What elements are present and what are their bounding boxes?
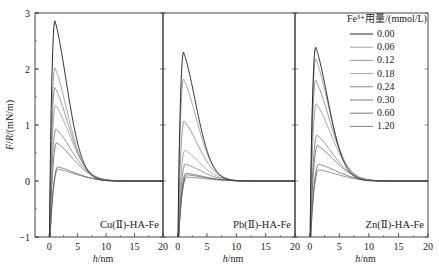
- panel-label: Pb(Ⅱ)-HA-Fe: [233, 219, 291, 231]
- legend-entry: 0.00: [377, 28, 395, 39]
- x-tick-label: 10: [101, 241, 111, 252]
- panels-layer: 05101520h/nmCu(Ⅱ)-HA-Fe05101520h/nmPb(Ⅱ)…: [35, 13, 433, 265]
- y-tick-label: 1: [25, 120, 30, 131]
- x-tick-label: 5: [205, 241, 210, 252]
- curve-0.00: [309, 47, 427, 265]
- x-tick-label: 0: [47, 241, 52, 252]
- legend-title: Fe³⁺用量/(mmol/L): [347, 13, 427, 25]
- y-tick-label: 0: [25, 176, 30, 187]
- legend-entry: 0.06: [377, 41, 395, 52]
- legend: Fe³⁺用量/(mmol/L)0.000.060.120.180.240.300…: [347, 13, 427, 131]
- legend-entry: 0.12: [377, 54, 395, 65]
- panel-frame: [295, 13, 428, 237]
- x-tick-label: 20: [423, 241, 433, 252]
- figure: 05101520h/nmCu(Ⅱ)-HA-Fe05101520h/nmPb(Ⅱ)…: [0, 0, 439, 273]
- x-tick-label: 20: [290, 241, 300, 252]
- x-tick-label: 0: [175, 241, 180, 252]
- x-tick-label: 20: [158, 241, 168, 252]
- legend-entry: 0.18: [377, 68, 395, 79]
- x-tick-label: 15: [261, 241, 271, 252]
- force-distance-chart: 05101520h/nmCu(Ⅱ)-HA-Fe05101520h/nmPb(Ⅱ)…: [0, 0, 439, 273]
- panel-frame: [35, 13, 163, 237]
- curve-0.12: [49, 87, 163, 265]
- panel-3: 05101520h/nmZn(Ⅱ)-HA-Fe: [295, 13, 433, 265]
- x-tick-label: 15: [393, 241, 403, 252]
- x-axis-label: h/nm: [93, 253, 114, 264]
- x-tick-label: 5: [337, 241, 342, 252]
- panel-1: 05101520h/nmCu(Ⅱ)-HA-Fe: [35, 13, 168, 265]
- legend-entry: 0.30: [377, 94, 395, 105]
- axes-layer: −10123F/R/(mN/m): [4, 8, 39, 243]
- legend-entry: 1.20: [377, 120, 395, 131]
- legend-entry: 0.60: [377, 107, 395, 118]
- x-axis-label: h/nm: [223, 253, 244, 264]
- y-tick-label: 3: [25, 8, 30, 19]
- x-tick-label: 10: [231, 241, 241, 252]
- x-tick-label: 10: [364, 241, 374, 252]
- y-tick-label: 2: [25, 64, 30, 75]
- panel-label: Zn(Ⅱ)-HA-Fe: [366, 219, 425, 231]
- x-tick-label: 15: [130, 241, 140, 252]
- panel-2: 05101520h/nmPb(Ⅱ)-HA-Fe: [163, 13, 300, 265]
- legend-entry: 0.24: [377, 81, 395, 92]
- y-axis-label: F/R/(mN/m): [4, 100, 16, 151]
- x-tick-label: 5: [75, 241, 80, 252]
- x-axis-label: h/nm: [355, 253, 376, 264]
- panel-label: Cu(Ⅱ)-HA-Fe: [100, 219, 159, 231]
- x-tick-label: 0: [307, 241, 312, 252]
- y-tick-label: −1: [19, 232, 30, 243]
